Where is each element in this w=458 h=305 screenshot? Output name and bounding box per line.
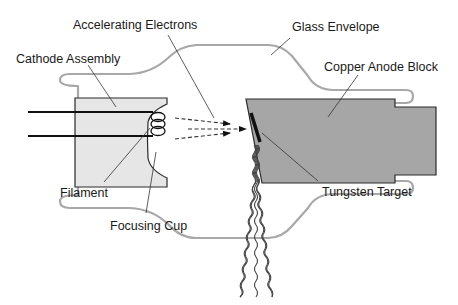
leader-accelerating-electrons xyxy=(168,35,214,118)
copper-anode-block xyxy=(246,99,436,183)
label-accelerating-electrons: Accelerating Electrons xyxy=(73,18,197,32)
label-tungsten-target: Tungsten Target xyxy=(322,185,412,199)
electron-path-3 xyxy=(175,133,230,139)
label-focusing-cup: Focusing Cup xyxy=(110,219,187,233)
label-cathode-assembly: Cathode Assembly xyxy=(16,52,121,66)
electron-path-1 xyxy=(175,118,230,124)
label-glass-envelope: Glass Envelope xyxy=(292,20,380,34)
electron-beam xyxy=(175,118,246,139)
filament-coil xyxy=(151,113,165,136)
label-copper-anode-block: Copper Anode Block xyxy=(324,60,439,74)
label-filament: Filament xyxy=(60,186,108,200)
xray-tube-diagram: Accelerating Electrons Glass Envelope Ca… xyxy=(0,0,458,305)
